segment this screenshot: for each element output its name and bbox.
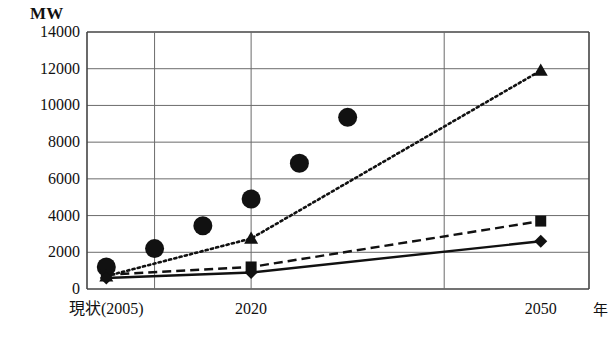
data-point-circle xyxy=(290,154,309,173)
x-axis-unit-label: 年 xyxy=(593,303,608,318)
x-tick-label: 2020 xyxy=(171,301,331,317)
y-tick-label: 6000 xyxy=(2,171,87,187)
data-point-circle xyxy=(338,108,357,127)
data-point-triangle xyxy=(534,64,548,76)
y-tick-label: 8000 xyxy=(2,134,87,150)
data-point-diamond xyxy=(534,235,547,248)
x-tick-label: 2050 xyxy=(461,301,613,317)
data-point-circle xyxy=(193,216,212,235)
data-point-square xyxy=(535,216,546,227)
data-point-circle xyxy=(242,190,261,209)
y-tick-label: 2000 xyxy=(2,244,87,260)
series-line-triangles-dotted xyxy=(106,71,540,277)
data-point-circle xyxy=(145,239,164,258)
x-tick-label: 現状(2005) xyxy=(26,301,186,317)
y-tick-label: 14000 xyxy=(2,24,87,40)
y-tick-label: 12000 xyxy=(2,61,87,77)
data-point-triangle xyxy=(244,232,258,244)
y-tick-label: 0 xyxy=(2,281,87,297)
y-tick-label: 4000 xyxy=(2,208,87,224)
y-tick-label: 10000 xyxy=(2,97,87,113)
chart-figure: MW 14000120001000080006000400020000現状(20… xyxy=(0,0,613,364)
